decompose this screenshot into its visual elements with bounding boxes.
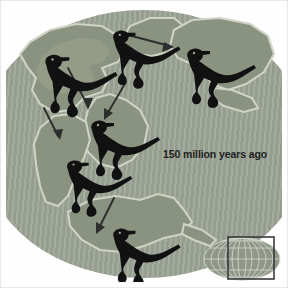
globe-locator-inset <box>202 234 282 284</box>
time-label: 150 million years ago <box>163 148 267 160</box>
dinosaur-europe <box>113 31 180 89</box>
dinosaur-north-america <box>45 55 117 117</box>
dinosaur-antarctica <box>113 229 180 282</box>
dinosaur-asia <box>187 49 256 108</box>
dinosaur-africa <box>91 121 160 180</box>
figure-root: 150 million years ago <box>0 0 288 288</box>
